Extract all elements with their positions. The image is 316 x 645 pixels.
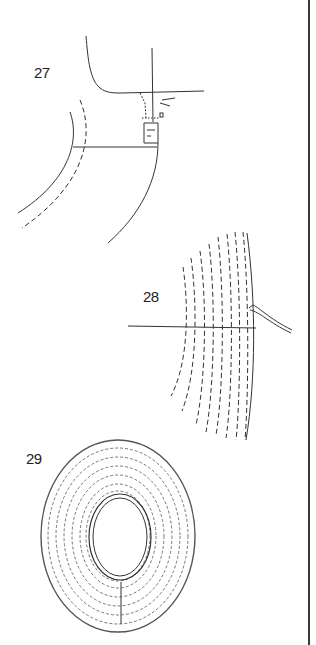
- diagram-drawings: [0, 0, 316, 645]
- figure-27-drawing: [18, 36, 204, 243]
- diagram-page: 27 28 29: [0, 0, 316, 645]
- figure-28-solid-lines: [128, 233, 292, 440]
- figure-28-drawing: [171, 232, 248, 440]
- figure-29-drawing: [41, 440, 195, 632]
